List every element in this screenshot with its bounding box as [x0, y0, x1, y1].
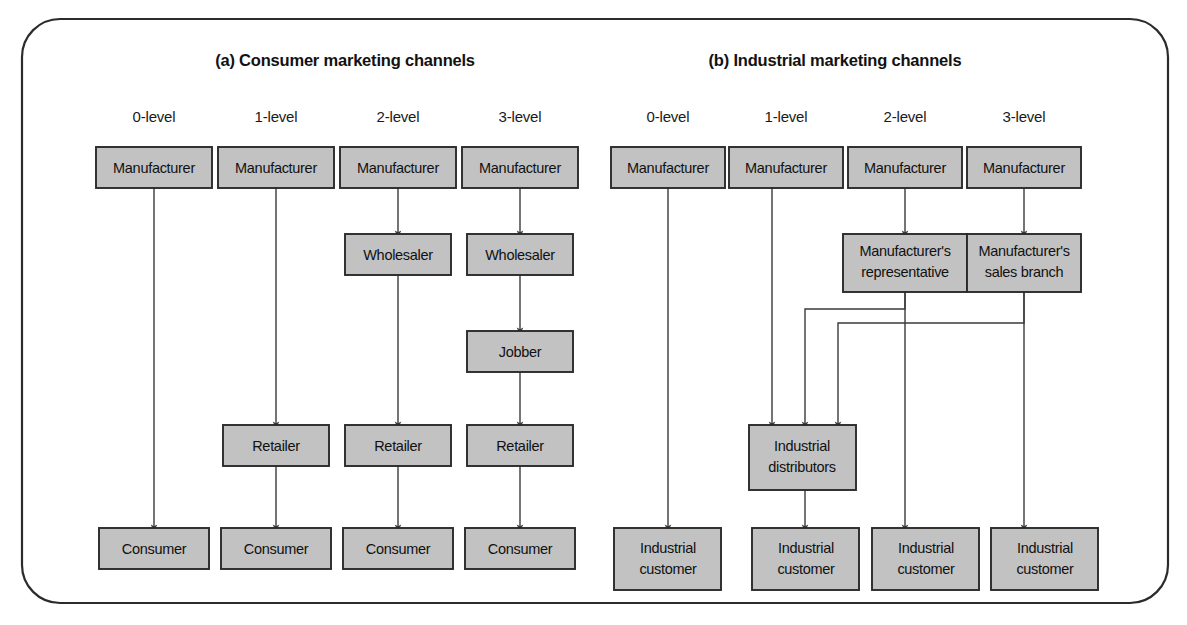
panel-title-consumer: (a) Consumer marketing channels [215, 51, 475, 69]
node-label: Retailer [374, 438, 422, 454]
node-label-line-2: customer [897, 561, 955, 577]
node-label-line-1: Manufacturer's [859, 243, 950, 259]
node-label: Jobber [499, 344, 542, 360]
node-label-line-1: Industrial [640, 540, 696, 556]
node-label: Manufacturer [113, 160, 195, 176]
node-a1-consumer: Consumer [221, 528, 331, 569]
node-label: Manufacturer [357, 160, 439, 176]
node-b2-manufacturer: Manufacturer [848, 147, 962, 188]
node-label: Manufacturer [745, 160, 827, 176]
node-label: Retailer [252, 438, 300, 454]
node-label-line-1: Manufacturer's [978, 243, 1069, 259]
node-label-line-2: customer [777, 561, 835, 577]
node-label: Manufacturer [627, 160, 709, 176]
node-label-line-1: Industrial [898, 540, 954, 556]
panel-title-industrial: (b) Industrial marketing channels [709, 51, 962, 69]
node-label: Consumer [488, 541, 553, 557]
node-label: Consumer [366, 541, 431, 557]
node-b2-manufacturers-representative: Manufacturer's representative [843, 234, 967, 292]
node-b3-manufacturer: Manufacturer [967, 147, 1081, 188]
node-a3-retailer: Retailer [467, 425, 573, 466]
node-label: Consumer [244, 541, 309, 557]
node-a2-wholesaler: Wholesaler [345, 234, 451, 275]
node-a3-manufacturer: Manufacturer [462, 147, 578, 188]
node-label-line-1: Industrial [778, 540, 834, 556]
node-label-line-1: Industrial [1017, 540, 1073, 556]
node-b-industrial-distributors: Industrial distributors [749, 425, 856, 490]
marketing-channels-diagram: (a) Consumer marketing channels (b) Indu… [0, 0, 1187, 625]
node-a1-retailer: Retailer [223, 425, 329, 466]
node-a0-manufacturer: Manufacturer [96, 147, 212, 188]
node-a2-retailer: Retailer [345, 425, 451, 466]
node-b3-manufacturers-sales-branch: Manufacturer's sales branch [967, 234, 1081, 292]
node-label: Manufacturer [235, 160, 317, 176]
node-label-line-2: distributors [768, 459, 835, 475]
node-label: Manufacturer [864, 160, 946, 176]
level-label-b-0: 0-level [647, 108, 690, 125]
node-label-line-2: customer [1016, 561, 1074, 577]
node-b2-industrial-customer: Industrial customer [872, 528, 979, 590]
node-label: Manufacturer [479, 160, 561, 176]
node-label-line-2: representative [861, 264, 949, 280]
node-b1-industrial-customer: Industrial customer [752, 528, 859, 590]
node-a3-consumer: Consumer [465, 528, 575, 569]
node-label-line-2: customer [639, 561, 697, 577]
node-a0-consumer: Consumer [99, 528, 209, 569]
node-a3-wholesaler: Wholesaler [467, 234, 573, 275]
node-b0-industrial-customer: Industrial customer [614, 528, 721, 590]
level-label-a-3: 3-level [499, 108, 542, 125]
node-b3-industrial-customer: Industrial customer [991, 528, 1098, 590]
node-a1-manufacturer: Manufacturer [218, 147, 334, 188]
node-label: Wholesaler [485, 247, 555, 263]
level-label-a-0: 0-level [133, 108, 176, 125]
node-a2-consumer: Consumer [343, 528, 453, 569]
level-label-b-3: 3-level [1003, 108, 1046, 125]
node-b1-manufacturer: Manufacturer [729, 147, 843, 188]
connector-b2-rep-distributors [805, 292, 905, 425]
node-label-line-2: sales branch [985, 264, 1064, 280]
figure-page: (a) Consumer marketing channels (b) Indu… [0, 0, 1187, 625]
node-label: Retailer [496, 438, 544, 454]
figure-frame [22, 19, 1168, 603]
connector-b3-branch-distributors [838, 292, 1024, 425]
level-label-b-1: 1-level [765, 108, 808, 125]
level-label-b-2: 2-level [884, 108, 927, 125]
node-label: Manufacturer [983, 160, 1065, 176]
node-label: Wholesaler [363, 247, 433, 263]
node-b0-manufacturer: Manufacturer [611, 147, 725, 188]
node-label: Consumer [122, 541, 187, 557]
node-label-line-1: Industrial [774, 438, 830, 454]
level-label-a-1: 1-level [255, 108, 298, 125]
node-a2-manufacturer: Manufacturer [340, 147, 456, 188]
level-label-a-2: 2-level [377, 108, 420, 125]
node-a3-jobber: Jobber [467, 331, 573, 372]
